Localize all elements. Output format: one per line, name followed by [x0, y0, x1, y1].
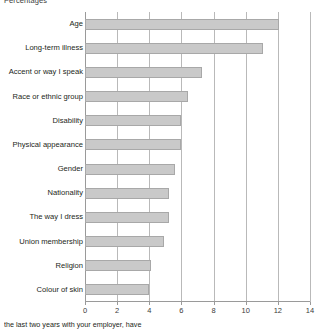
bar-row: Physical appearance — [0, 139, 315, 150]
chart-title: Percentages — [4, 0, 47, 5]
tick-mark-2 — [117, 302, 118, 305]
tick-label-12: 12 — [274, 306, 282, 315]
bar — [85, 115, 181, 126]
bar-row: Colour of skin — [0, 284, 315, 295]
bar-row: Gender — [0, 164, 315, 175]
gridline-6 — [181, 12, 182, 302]
tick-mark-8 — [214, 302, 215, 305]
gridline-12 — [278, 12, 279, 302]
bar-category-label: Religion — [56, 261, 83, 271]
bar-row: Age — [0, 19, 315, 30]
plot-area — [85, 12, 310, 302]
bar-category-label: Accent or way I speak — [9, 67, 83, 77]
gridline-8 — [214, 12, 215, 302]
tick-mark-14 — [310, 302, 311, 305]
gridline-14 — [310, 12, 311, 302]
bar — [85, 91, 188, 102]
tick-mark-6 — [181, 302, 182, 305]
bar-category-label: Race or ethnic group — [13, 92, 84, 102]
bar-row: Race or ethnic group — [0, 91, 315, 102]
bar-category-label: The way I dress — [29, 212, 83, 222]
tick-label-8: 8 — [211, 306, 215, 315]
bar-row: Nationality — [0, 188, 315, 199]
bar-category-label: Union membership — [19, 237, 83, 247]
bar — [85, 19, 279, 30]
tick-mark-12 — [278, 302, 279, 305]
tick-label-14: 14 — [306, 306, 314, 315]
bar — [85, 212, 169, 223]
gridline-10 — [246, 12, 247, 302]
bar-row: Religion — [0, 260, 315, 271]
tick-label-6: 6 — [179, 306, 183, 315]
gridline-0 — [85, 12, 86, 302]
bar-category-label: Physical appearance — [13, 140, 84, 150]
bar — [85, 260, 151, 271]
bar-category-label: Disability — [53, 116, 83, 126]
tick-mark-4 — [149, 302, 150, 305]
tick-label-4: 4 — [147, 306, 151, 315]
bar — [85, 164, 175, 175]
bar-category-label: Nationality — [48, 188, 83, 198]
tick-mark-0 — [85, 302, 86, 305]
bar-category-label: Long-term illness — [25, 43, 83, 53]
x-axis-line — [85, 301, 310, 302]
bar — [85, 236, 164, 247]
bar-row: Disability — [0, 115, 315, 126]
bar-row: Accent or way I speak — [0, 67, 315, 78]
bar — [85, 67, 202, 78]
bar-row: The way I dress — [0, 212, 315, 223]
chart-footnote: the last two years with your employer, h… — [4, 320, 315, 329]
bar — [85, 139, 181, 150]
bar — [85, 284, 149, 295]
gridline-4 — [149, 12, 150, 302]
tick-label-10: 10 — [242, 306, 250, 315]
bar-row: Long-term illness — [0, 43, 315, 54]
bar-row: Union membership — [0, 236, 315, 247]
bar — [85, 188, 169, 199]
bar — [85, 43, 263, 54]
bar-category-label: Age — [69, 19, 83, 29]
tick-mark-10 — [246, 302, 247, 305]
gridline-2 — [117, 12, 118, 302]
bar-category-label: Gender — [58, 164, 83, 174]
bar-category-label: Colour of skin — [37, 285, 83, 295]
tick-label-0: 0 — [83, 306, 87, 315]
tick-label-2: 2 — [115, 306, 119, 315]
